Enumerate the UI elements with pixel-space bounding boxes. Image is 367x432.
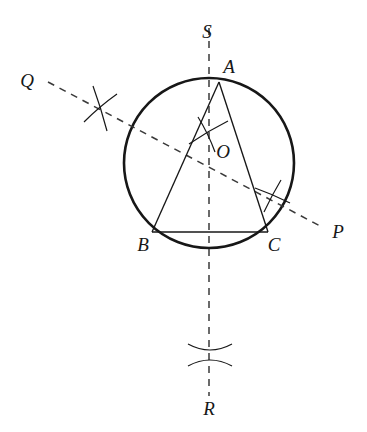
figure-background <box>0 0 367 432</box>
label-A: A <box>221 56 235 77</box>
geometry-figure: S A Q O P B C R <box>0 0 367 432</box>
label-S: S <box>202 21 212 42</box>
label-C: C <box>268 234 281 255</box>
label-P: P <box>331 221 344 242</box>
label-Q: Q <box>20 70 34 91</box>
label-O: O <box>216 141 230 162</box>
label-R: R <box>202 398 215 419</box>
label-B: B <box>137 234 149 255</box>
